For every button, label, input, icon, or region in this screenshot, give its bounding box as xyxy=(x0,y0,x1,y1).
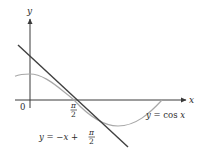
cosine-curve-label: y = cos x xyxy=(145,110,185,120)
x-axis-label: x xyxy=(189,95,194,105)
tick-label-denominator: 2 xyxy=(71,110,76,119)
origin-label: 0 xyxy=(20,102,25,112)
tangent-label-numerator: π xyxy=(88,128,95,137)
y-axis-label: y xyxy=(26,6,33,16)
tangent-line-diagram: y x 0 π 2 y = cos x y = −x + π 2 xyxy=(0,0,208,154)
tangent-line-label: y = −x + xyxy=(38,132,78,142)
tangent-label-denominator: 2 xyxy=(89,137,94,146)
